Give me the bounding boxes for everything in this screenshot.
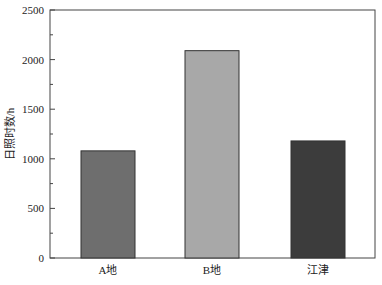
y-tick-label: 1000 (22, 153, 45, 165)
y-tick-label: 500 (28, 202, 45, 214)
y-tick-label: 2000 (22, 54, 45, 66)
bars (81, 51, 345, 258)
x-category-label: 江津 (307, 264, 329, 276)
bar-1 (81, 151, 135, 258)
bar-chart: 05001000150020002500 A地B地江津 日照时数/h (0, 0, 382, 285)
bar-3 (291, 141, 345, 258)
bar-2 (185, 51, 239, 258)
x-category-label: B地 (203, 264, 221, 276)
y-tick-label: 2500 (22, 4, 45, 16)
y-axis-label: 日照时数/h (4, 107, 16, 160)
x-category-label: A地 (99, 264, 118, 276)
y-tick-label: 0 (39, 252, 45, 264)
y-tick-label: 1500 (22, 103, 45, 115)
x-axis: A地B地江津 (99, 264, 329, 276)
